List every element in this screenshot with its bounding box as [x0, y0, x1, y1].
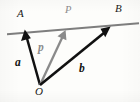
vector-a-arrow — [21, 29, 40, 85]
label-vector-a: a — [15, 57, 21, 69]
label-vector-p: p — [38, 42, 44, 54]
label-point-p: P — [65, 5, 71, 16]
label-point-o: O — [35, 86, 43, 97]
label-point-a: A — [17, 8, 24, 19]
vector-p-arrow — [40, 30, 66, 85]
vector-b-arrow — [40, 27, 111, 85]
label-vector-b: b — [79, 63, 85, 75]
label-point-b: B — [115, 3, 122, 14]
vector-diagram-figure: A P B p a b O — [0, 0, 140, 102]
